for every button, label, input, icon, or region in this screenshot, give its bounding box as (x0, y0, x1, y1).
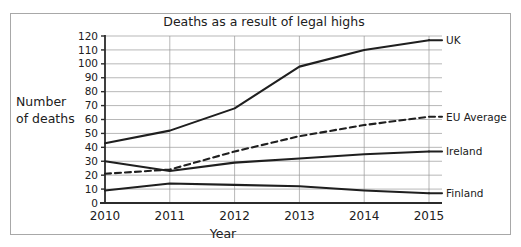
series-label-eu-average: EU Average (446, 111, 507, 123)
gridlines (100, 35, 442, 203)
x-axis-title: Year (209, 226, 237, 241)
y-tick-label: 120 (78, 30, 98, 42)
x-tick-label: 2012 (219, 209, 250, 223)
chart-figure: Deaths as a result of legal highs Number… (0, 0, 521, 247)
y-tick-label: 10 (85, 183, 98, 195)
y-tick-label: 110 (78, 44, 98, 56)
chart-title: Deaths as a result of legal highs (163, 14, 364, 29)
series-label-finland: Finland (446, 187, 484, 199)
y-axis-title-line1: Number (16, 94, 67, 109)
x-tick-label: 2014 (349, 209, 380, 223)
x-tick-label: 2011 (155, 209, 186, 223)
y-tick-label: 0 (91, 197, 98, 209)
y-tick-label: 70 (85, 99, 98, 111)
series-labels: UKEU AverageIrelandFinland (446, 34, 507, 199)
y-tick-label: 50 (85, 127, 98, 139)
y-tick-label: 30 (85, 155, 98, 167)
y-axis-title-line2: of deaths (16, 111, 75, 126)
line-chart: Deaths as a result of legal highs Number… (0, 0, 521, 247)
y-tick-label: 90 (85, 71, 98, 83)
x-axis-ticks: 201020112012201320142015 (90, 209, 445, 223)
y-tick-label: 60 (85, 113, 98, 125)
y-axis-ticks: 0102030405060708090100110120 (78, 30, 105, 209)
y-tick-label: 40 (85, 141, 98, 153)
x-tick-label: 2015 (414, 209, 445, 223)
y-tick-label: 100 (78, 57, 98, 69)
x-tick-label: 2010 (90, 209, 121, 223)
data-series (105, 40, 442, 193)
series-label-ireland: Ireland (446, 145, 482, 157)
x-tick-label: 2013 (284, 209, 315, 223)
y-tick-label: 20 (85, 169, 98, 181)
series-line-eu-average (105, 117, 429, 174)
series-line-finland (105, 184, 429, 194)
series-label-uk: UK (446, 34, 462, 46)
y-tick-label: 80 (85, 85, 98, 97)
